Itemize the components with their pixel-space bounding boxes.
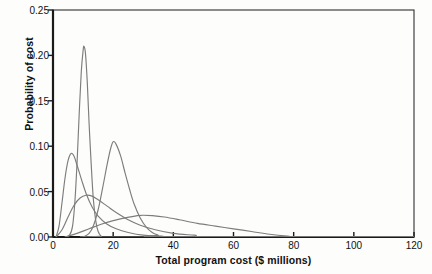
series-line-2	[83, 141, 414, 237]
series-group	[56, 46, 414, 237]
series-line-1	[65, 46, 414, 237]
plot-area	[0, 0, 432, 274]
plot-frame	[53, 10, 414, 237]
series-line-3	[56, 153, 414, 237]
series-line-5	[65, 215, 414, 237]
series-line-4	[56, 195, 414, 237]
chart-figure: Probability of cost Total program cost (…	[0, 0, 432, 274]
